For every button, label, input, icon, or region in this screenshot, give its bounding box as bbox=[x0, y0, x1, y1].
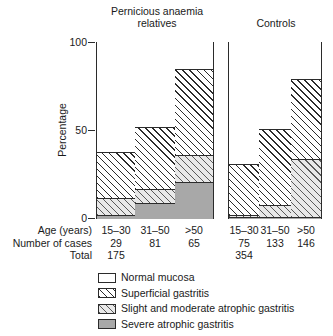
total-cell-0: 175 bbox=[96, 249, 136, 262]
bar-segment-normal-mucosa bbox=[259, 42, 291, 129]
bar-ct-1 bbox=[259, 42, 292, 219]
chart-plot-area bbox=[96, 42, 322, 219]
bar-segment-severe-atrophic-gastritis bbox=[175, 182, 213, 219]
bar-segment-slight-moderate-atrophic-gastritis bbox=[259, 205, 291, 217]
age-cell-0: 15–30 bbox=[95, 224, 137, 237]
bar-segment-superficial-gastritis bbox=[259, 129, 291, 205]
table-row-label-cases: Number of cases bbox=[13, 237, 92, 250]
bar-segment-severe-atrophic-gastritis bbox=[97, 215, 135, 219]
table-row-total: Total 175 354 bbox=[0, 249, 333, 262]
y-tick-0 bbox=[88, 218, 95, 219]
legend-item-severe-atrophic-gastritis: Severe atrophic gastritis bbox=[98, 317, 294, 333]
legend-swatch-superficial-gastritis bbox=[98, 288, 116, 298]
bar-segment-normal-mucosa bbox=[229, 42, 259, 164]
bar-ct-0 bbox=[229, 42, 260, 219]
y-tick-100 bbox=[88, 42, 95, 43]
table-row-age: Age (years) 15–30 31–50 >50 15–30 31–50 … bbox=[0, 224, 333, 237]
legend-label-normal-mucosa: Normal mucosa bbox=[121, 272, 195, 283]
group-title-pernicious-anaemia-relatives: Pernicious anaemia relatives bbox=[96, 6, 218, 29]
age-cell-2: >50 bbox=[173, 224, 215, 237]
bar-pa-2 bbox=[175, 42, 213, 219]
y-axis: 100 50 0 Percentage bbox=[88, 42, 96, 219]
bar-segment-slight-moderate-atrophic-gastritis bbox=[229, 215, 259, 217]
bar-segment-slight-moderate-atrophic-gastritis bbox=[175, 155, 213, 182]
age-cell-5: >50 bbox=[285, 224, 327, 237]
bar-pa-1 bbox=[135, 42, 176, 219]
bar-segment-severe-atrophic-gastritis bbox=[135, 203, 175, 219]
legend-item-normal-mucosa: Normal mucosa bbox=[98, 270, 294, 286]
chart-legend: Normal mucosa Superficial gastritis Slig… bbox=[98, 270, 294, 332]
bar-segment-slight-moderate-atrophic-gastritis bbox=[97, 198, 135, 216]
group-title-line-2: relatives bbox=[96, 18, 218, 30]
bar-segment-superficial-gastritis bbox=[97, 152, 135, 198]
bar-segment-superficial-gastritis bbox=[135, 127, 175, 189]
y-tick-label-100: 100 bbox=[47, 37, 87, 48]
y-tick-label-0: 0 bbox=[47, 213, 87, 224]
table-row-label-total: Total bbox=[70, 249, 92, 262]
bar-segment-slight-moderate-atrophic-gastritis bbox=[135, 189, 175, 203]
bar-segment-superficial-gastritis bbox=[229, 164, 259, 215]
y-axis-label: Percentage bbox=[56, 103, 68, 157]
bar-segment-severe-atrophic-gastritis bbox=[291, 217, 321, 219]
group-title-line-1: Pernicious anaemia bbox=[96, 6, 218, 18]
bar-segment-normal-mucosa bbox=[175, 42, 213, 69]
y-tick-50 bbox=[88, 130, 95, 131]
legend-label-slight-moderate-atrophic-gastritis: Slight and moderate atrophic gastritis bbox=[121, 303, 294, 314]
bar-segment-superficial-gastritis bbox=[291, 79, 321, 159]
legend-label-severe-atrophic-gastritis: Severe atrophic gastritis bbox=[121, 319, 234, 330]
bar-segment-normal-mucosa bbox=[97, 42, 135, 152]
category-table: Age (years) 15–30 31–50 >50 15–30 31–50 … bbox=[0, 224, 333, 262]
bar-segment-superficial-gastritis bbox=[175, 69, 213, 156]
cases-cell-5: 146 bbox=[285, 237, 327, 250]
group-title-controls: Controls bbox=[228, 18, 324, 30]
legend-swatch-severe-atrophic-gastritis bbox=[98, 319, 116, 329]
table-row-label-age: Age (years) bbox=[38, 224, 92, 237]
age-cell-1: 31–50 bbox=[134, 224, 176, 237]
total-cell-1: 354 bbox=[224, 249, 264, 262]
cases-cell-2: 65 bbox=[173, 237, 215, 250]
cases-cell-1: 81 bbox=[134, 237, 176, 250]
legend-item-slight-moderate-atrophic-gastritis: Slight and moderate atrophic gastritis bbox=[98, 301, 294, 317]
legend-item-superficial-gastritis: Superficial gastritis bbox=[98, 286, 294, 302]
legend-swatch-slight-moderate-atrophic-gastritis bbox=[98, 304, 116, 314]
bar-ct-2 bbox=[291, 42, 321, 219]
table-row-number-of-cases: Number of cases 29 81 65 75 133 146 bbox=[0, 237, 333, 250]
bar-segment-normal-mucosa bbox=[291, 42, 321, 79]
bar-segment-normal-mucosa bbox=[135, 42, 175, 127]
legend-label-superficial-gastritis: Superficial gastritis bbox=[121, 288, 209, 299]
bar-pa-0 bbox=[97, 42, 136, 219]
cases-cell-0: 29 bbox=[95, 237, 137, 250]
bar-segment-severe-atrophic-gastritis bbox=[229, 217, 259, 219]
legend-swatch-normal-mucosa bbox=[98, 273, 116, 283]
bar-segment-severe-atrophic-gastritis bbox=[259, 217, 291, 219]
bar-segment-slight-moderate-atrophic-gastritis bbox=[291, 159, 321, 217]
